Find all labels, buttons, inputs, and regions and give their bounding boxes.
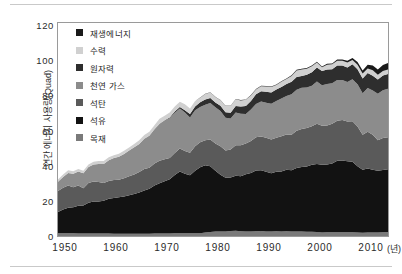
y-tick-0: 0 bbox=[24, 232, 54, 242]
legend-swatch-oil bbox=[76, 117, 83, 124]
x-tick-1950: 1950 bbox=[52, 242, 77, 253]
x-tick-1970: 1970 bbox=[154, 242, 179, 253]
legend-item-oil: 석유 bbox=[76, 112, 166, 130]
legend-item-nuclear: 원자력 bbox=[76, 59, 166, 77]
legend-item-coal: 석탄 bbox=[76, 94, 166, 112]
chart-legend: 재생에너지 수력 원자력 천연 가스 석탄 석유 목재 bbox=[76, 24, 166, 147]
legend-label-coal: 석탄 bbox=[90, 97, 106, 109]
legend-label-oil: 석유 bbox=[90, 114, 106, 126]
legend-item-hydro: 수력 bbox=[76, 42, 166, 60]
chart-figure: 120 100 80 60 40 20 0 연간 에너지 사용량(Quad) 재… bbox=[0, 0, 402, 274]
legend-label-natural-gas: 천연 가스 bbox=[90, 79, 125, 91]
legend-label-renewables: 재생에너지 bbox=[90, 27, 131, 39]
x-tick-2000: 2000 bbox=[307, 242, 332, 253]
legend-item-wood: 목재 bbox=[76, 129, 166, 147]
x-axis-tick-labels: 1950 1960 1970 1980 1990 2000 2010 (년) bbox=[57, 242, 402, 262]
x-tick-2010: 2010 bbox=[358, 242, 383, 253]
x-tick-1960: 1960 bbox=[103, 242, 128, 253]
top-divider bbox=[10, 4, 392, 5]
x-tick-1990: 1990 bbox=[256, 242, 281, 253]
legend-swatch-natural-gas bbox=[76, 82, 83, 89]
legend-item-natural-gas: 천연 가스 bbox=[76, 77, 166, 95]
bottom-divider bbox=[10, 266, 392, 267]
y-tick-120: 120 bbox=[24, 21, 54, 31]
legend-swatch-hydro bbox=[76, 47, 83, 54]
legend-swatch-wood bbox=[76, 134, 83, 141]
legend-label-nuclear: 원자력 bbox=[90, 62, 115, 74]
y-axis-tick-labels: 120 100 80 60 40 20 0 연간 에너지 사용량(Quad) bbox=[18, 0, 54, 274]
legend-swatch-renewables bbox=[76, 29, 83, 36]
y-axis-title: 연간 에너지 사용량(Quad) bbox=[41, 44, 54, 194]
legend-swatch-coal bbox=[76, 99, 83, 106]
legend-item-renewables: 재생에너지 bbox=[76, 24, 166, 42]
legend-label-wood: 목재 bbox=[90, 132, 106, 144]
x-tick-1980: 1980 bbox=[205, 242, 230, 253]
legend-label-hydro: 수력 bbox=[90, 44, 106, 56]
legend-swatch-nuclear bbox=[76, 64, 83, 71]
y-tick-20: 20 bbox=[24, 197, 54, 207]
x-axis-unit-label: (년) bbox=[387, 242, 401, 255]
